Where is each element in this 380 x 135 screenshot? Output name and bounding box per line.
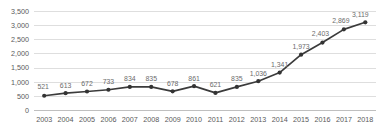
x-axis-tick-label: 2013 [250,115,266,124]
y-axis-tick-label: 2,000 [11,49,29,58]
x-axis-tick-label: 2006 [100,115,116,124]
data-point-marker [192,84,196,88]
data-point-marker [213,91,217,95]
data-point-marker [64,91,68,95]
data-value-label: 2,403 [312,30,329,37]
x-axis-tick-label: 2018 [357,115,373,124]
line-chart: 05001,0001,5002,0002,5003,0003,500 20032… [0,0,380,135]
x-axis-tick-labels: 2003200420052006200720082009201020112012… [36,115,373,124]
data-point-marker [278,70,282,74]
data-value-label: 678 [167,80,179,87]
data-value-label: 733 [103,78,115,85]
data-value-label: 613 [60,82,72,89]
y-axis-tick-label: 3,500 [11,7,29,16]
data-value-labels: 5216136727338348356788616218351,0361,341… [37,11,368,91]
data-point-marker [256,79,260,83]
x-axis-tick-label: 2014 [272,115,288,124]
x-axis-tick-label: 2005 [79,115,95,124]
y-axis-tick-label: 3,000 [11,21,29,30]
data-value-label: 1,973 [292,43,309,50]
data-value-label: 1,341 [271,61,288,68]
data-point-marker [342,27,346,31]
x-axis-tick-label: 2015 [293,115,309,124]
data-value-label: 835 [145,75,157,82]
x-axis-tick-label: 2003 [36,115,52,124]
y-axis-tick-label: 500 [17,92,29,101]
y-axis-tick-label: 1,500 [11,63,29,72]
x-axis-tick-label: 2017 [336,115,352,124]
data-point-marker [299,53,303,57]
x-axis-tick-label: 2011 [208,115,223,124]
y-axis-tick-label: 1,000 [11,78,29,87]
gridlines [34,12,377,111]
data-value-label: 2,869 [332,17,349,24]
data-value-label: 521 [37,83,49,90]
x-axis-tick-label: 2004 [58,115,74,124]
data-point-marker [149,85,153,89]
x-axis-tick-label: 2009 [165,115,181,124]
x-axis-tick-label: 2012 [229,115,245,124]
x-axis-tick-label: 2016 [314,115,330,124]
data-value-label: 861 [188,75,200,82]
data-value-label: 621 [210,81,222,88]
data-point-marker [363,20,367,24]
data-point-marker [106,88,110,92]
data-value-label: 834 [124,75,136,82]
data-value-label: 1,036 [250,70,267,77]
data-point-marker [85,89,89,93]
data-value-label: 672 [81,80,93,87]
chart-canvas: 05001,0001,5002,0002,5003,0003,500 20032… [0,0,380,135]
data-value-label: 3,119 [352,11,369,18]
data-point-marker [320,40,324,44]
data-point-marker [42,94,46,98]
data-point-marker [171,89,175,93]
data-point-marker [128,85,132,89]
data-value-label: 835 [231,75,243,82]
y-axis-tick-label: 2,500 [11,35,29,44]
data-point-marker [235,85,239,89]
y-axis-tick-labels: 05001,0001,5002,0002,5003,0003,500 [11,7,29,115]
x-axis-tick-label: 2010 [186,115,202,124]
x-axis-tick-label: 2007 [122,115,138,124]
y-axis-tick-label: 0 [25,106,29,115]
x-axis-tick-label: 2008 [143,115,159,124]
